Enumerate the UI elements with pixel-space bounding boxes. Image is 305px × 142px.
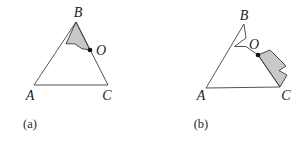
triangle-a-point-label-o: O bbox=[96, 43, 106, 58]
triangle-b-cut-piece bbox=[258, 50, 287, 87]
triangle-b: ABCO bbox=[196, 8, 292, 103]
caption-b: (b) bbox=[186, 117, 216, 132]
triangle-b-vertex-label-c: C bbox=[281, 88, 291, 103]
triangle-a-vertex-label-a: A bbox=[25, 88, 35, 103]
triangle-a-point-o-dot bbox=[88, 48, 93, 53]
triangle-b-vertex-label-a: A bbox=[196, 88, 206, 103]
triangle-a: ABCO bbox=[25, 5, 113, 103]
geometry-canvas: ABCOABCO bbox=[0, 0, 305, 142]
triangle-b-vertex-label-b: B bbox=[240, 8, 249, 23]
triangle-b-point-o-dot bbox=[256, 53, 261, 58]
triangle-a-vertex-label-b: B bbox=[74, 5, 83, 20]
caption-a: (a) bbox=[15, 117, 45, 132]
figure-panel: ABCOABCO (a) (b) bbox=[0, 0, 305, 142]
triangle-a-vertex-label-c: C bbox=[102, 88, 112, 103]
triangle-b-point-label-o: O bbox=[249, 37, 259, 52]
